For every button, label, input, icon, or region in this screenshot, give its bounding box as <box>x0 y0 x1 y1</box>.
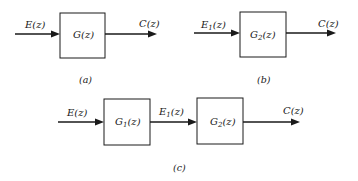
output-label-b: C(z) <box>318 18 339 29</box>
arrowhead-icon <box>291 119 300 126</box>
arrowhead-icon <box>231 30 240 37</box>
input-label-a: E(z) <box>24 19 45 30</box>
output-label-c: C(z) <box>283 105 304 116</box>
arrowhead-icon <box>327 30 336 37</box>
panel-b: E1(z) G2(z) C(z) (b) <box>194 12 339 85</box>
caption-c: (c) <box>173 162 186 173</box>
arrowhead-icon <box>148 31 157 38</box>
input-label-c: E(z) <box>66 107 87 118</box>
block-G-label: G(z) <box>73 29 94 40</box>
caption-b: (b) <box>257 74 271 85</box>
panel-c: E(z) G1(z) E1(z) G2(z) C(z) (c) <box>58 98 304 173</box>
arrowhead-icon <box>188 119 197 126</box>
input-label-b: E1(z) <box>200 19 226 32</box>
caption-a: (a) <box>79 74 92 85</box>
panel-a: E(z) G(z) C(z) (a) <box>15 13 160 85</box>
block-diagram-canvas: E(z) G(z) C(z) (a) E1(z) G2(z) C(z) (b) … <box>0 0 358 181</box>
arrowhead-icon <box>95 119 104 126</box>
output-label-a: C(z) <box>139 18 160 29</box>
arrowhead-icon <box>51 31 60 38</box>
intermediate-label: E1(z) <box>158 106 184 119</box>
